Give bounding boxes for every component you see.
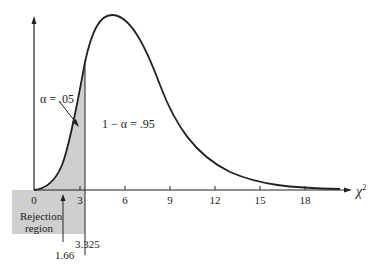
tick-label-12: 12: [210, 195, 221, 206]
tick-label-18: 18: [300, 195, 311, 206]
x-axis-superscript: 2: [362, 183, 366, 192]
marker-3325-label: 3.325: [75, 239, 100, 250]
marker-166-label: 1.66: [55, 250, 74, 261]
tick-label-0: 0: [31, 195, 37, 206]
rejection-label-line2: region: [25, 223, 53, 234]
tick-label-9: 9: [167, 195, 173, 206]
y-axis-arrow-icon: [32, 16, 37, 24]
rejection-label-line1: Rejection: [20, 211, 62, 222]
tick-label-3: 3: [77, 195, 83, 206]
chi-square-chart: [0, 0, 385, 273]
alpha-label: α = .05: [40, 93, 74, 105]
tick-label-15: 15: [255, 195, 266, 206]
one-minus-alpha-label: 1 − α = .95: [102, 118, 155, 130]
x-axis-label: χ2: [356, 184, 366, 199]
tick-label-6: 6: [122, 195, 128, 206]
x-axis-arrow-icon: [344, 188, 352, 193]
